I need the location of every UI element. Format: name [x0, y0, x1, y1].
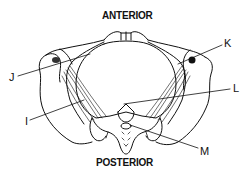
- leader-line-l: [124, 89, 230, 104]
- posterior-label: POSTERIOR: [96, 158, 153, 168]
- callout-m: M: [200, 146, 209, 157]
- left-sacroiliac-joint: [52, 57, 60, 63]
- callout-l: L: [233, 83, 239, 94]
- callout-j: J: [9, 72, 15, 83]
- leader-line-i: [30, 100, 84, 120]
- callout-i: I: [25, 116, 28, 127]
- sacrum: [90, 104, 162, 154]
- leader-line-j: [18, 54, 90, 76]
- pelvis-diagram: ANTERIOR POSTERIOR J K I L M: [0, 0, 252, 182]
- left-hip-bone: [39, 40, 104, 144]
- pelvic-inlet: [76, 41, 176, 118]
- leader-lines: [18, 45, 230, 148]
- pelvis-illustration: [0, 0, 252, 182]
- leader-line-k: [178, 45, 222, 64]
- anterior-label: ANTERIOR: [102, 11, 153, 21]
- pubic-symphysis: [104, 32, 148, 40]
- callout-k: K: [224, 38, 231, 49]
- right-hip-bone: [148, 40, 212, 145]
